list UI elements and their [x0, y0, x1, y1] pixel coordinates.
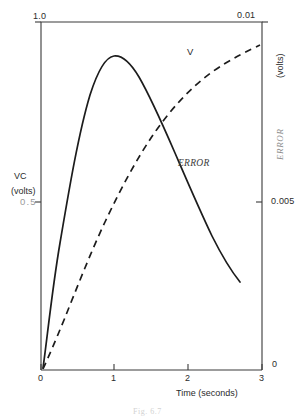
left-axis-top-tick-label: 1.0 [33, 12, 46, 21]
v-curve-label: V [187, 47, 193, 57]
error-curve [43, 56, 240, 368]
right-axis-name: ERROR [276, 129, 285, 161]
figure-container: 1.0 VC (volts) 0.5 0.01 0.005 0 (volts) … [0, 0, 298, 416]
right-axis-bottom-tick-label: 0 [272, 360, 277, 369]
v-curve [43, 45, 260, 369]
x-axis-title: Time (seconds) [176, 389, 238, 398]
right-axis-top-tick-label: 0.01 [237, 11, 255, 20]
x-tick-label-0: 0 [38, 374, 43, 383]
left-axis-mid-tick-label: 0.5 [20, 197, 37, 207]
right-axis-mid-tick-label: 0.005 [271, 197, 295, 206]
chart-canvas [0, 0, 298, 416]
x-tick-label-2: 2 [185, 374, 190, 383]
right-axis-unit: (volts) [276, 54, 285, 79]
plot-frame [41, 22, 262, 370]
left-axis-name: VC [14, 172, 27, 181]
error-curve-label: ERROR [178, 159, 210, 169]
figure-caption: Fig. 6.7 [133, 408, 162, 416]
left-axis-unit: (volts) [11, 187, 36, 196]
x-tick-label-3: 3 [259, 374, 264, 383]
x-tick-label-1: 1 [111, 374, 116, 383]
